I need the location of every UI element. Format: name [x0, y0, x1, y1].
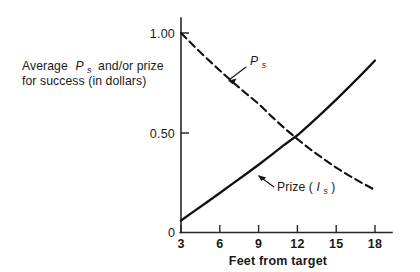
y-tick-label-1.00: 1.00: [150, 27, 175, 41]
x-tick-label-9: 9: [255, 237, 262, 251]
x-tick-label-6: 6: [216, 237, 223, 251]
ps-leader-line: [229, 67, 246, 80]
y-tick-marks: [181, 33, 189, 133]
y-axis-title: Average P s and/or prize for success (in…: [22, 59, 164, 88]
y-axis-title-line1-rest: and/or prize: [98, 59, 164, 73]
prize-annotation-label: Prize ( I s ): [277, 180, 336, 197]
ps-annotation-label: P s: [250, 54, 267, 70]
prize-prefix: Prize (: [277, 180, 313, 194]
x-tick-label-3: 3: [177, 237, 184, 251]
prize-suffix: ): [331, 180, 335, 194]
prize-subscript: s: [323, 186, 328, 196]
x-tick-label-18: 18: [368, 237, 382, 251]
series-line-prize: [181, 61, 375, 221]
annotation-ps: P s: [228, 54, 267, 85]
x-tick-marks: [181, 225, 375, 233]
y-tick-label-0: 0: [168, 226, 175, 240]
chart-figure: 1.00 0.50 0 3 6 9 12 15 18 Feet from tar…: [0, 0, 420, 272]
y-axis-title-symbol-p: P: [75, 59, 84, 73]
series-line-ps: [181, 33, 375, 190]
y-tick-label-0.50: 0.50: [150, 127, 175, 141]
prize-symbol: I: [316, 180, 320, 194]
y-axis-title-line2: for success (in dollars): [22, 74, 146, 88]
x-tick-label-15: 15: [329, 237, 343, 251]
ps-symbol: P: [250, 54, 259, 68]
x-tick-label-12: 12: [290, 237, 304, 251]
annotation-prize: Prize ( I s ): [258, 175, 336, 197]
x-axis-title: Feet from target: [229, 254, 328, 268]
y-axis-title-word-average: Average: [22, 59, 68, 73]
chart-canvas: 1.00 0.50 0 3 6 9 12 15 18 Feet from tar…: [0, 0, 420, 272]
ps-subscript: s: [262, 60, 267, 70]
